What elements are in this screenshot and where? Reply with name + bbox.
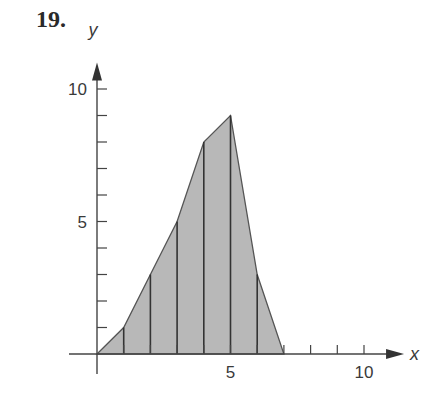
x-axis-arrow-icon <box>386 349 404 359</box>
shaded-region <box>97 116 284 355</box>
x-tick-label: 10 <box>355 363 374 382</box>
x-tick-label: 5 <box>226 363 235 382</box>
y-tick-label: 10 <box>68 80 87 99</box>
x-axis-label: x <box>409 344 420 364</box>
y-axis-label: y <box>87 20 99 40</box>
y-axis-arrow-icon <box>92 63 102 81</box>
y-tick-label: 5 <box>78 213 87 232</box>
chart: 510510yx <box>0 0 448 400</box>
